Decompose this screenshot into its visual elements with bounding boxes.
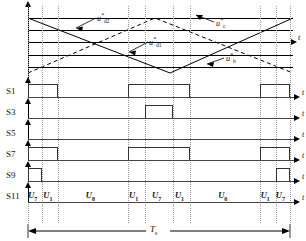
switch-row-label: S11: [6, 191, 20, 201]
voltage-vector-sub: 1: [135, 196, 138, 202]
voltage-vector-sub: 7: [282, 196, 285, 202]
voltage-vector-label: U1: [261, 190, 270, 202]
voltage-vector-label: U7: [28, 190, 37, 202]
voltage-vector-sub: 7: [34, 196, 37, 202]
period-label-sub: s: [155, 230, 157, 236]
voltage-vector-sub: 7: [158, 196, 161, 202]
switch-row-s11: S11t: [0, 0, 306, 241]
switch-row-y-axis-arrow-icon: [25, 182, 31, 188]
voltage-vector-sub: 0: [224, 196, 227, 202]
voltage-vector-label: U7: [152, 190, 161, 202]
voltage-vector-sub: 1: [181, 196, 184, 202]
voltage-vector-label: U8: [86, 190, 95, 202]
switch-row-t-axis: [28, 202, 294, 203]
voltage-vector-label: U1: [175, 190, 184, 202]
switch-row-t-label: t: [302, 193, 304, 202]
period-bar: Ts: [0, 224, 306, 241]
period-label: Ts: [150, 224, 157, 236]
voltage-vector-label: U1: [43, 190, 52, 202]
figure-root: t u*d2: [0, 0, 306, 241]
voltage-vector-sub: 1: [49, 196, 52, 202]
voltage-vector-label: U1: [129, 190, 138, 202]
voltage-vector-label: U0: [218, 190, 227, 202]
voltage-vector-sub: 1: [267, 196, 270, 202]
voltage-vector-label: U7: [276, 190, 285, 202]
switch-row-t-axis-arrow-icon: [294, 199, 300, 205]
voltage-vector-sub: 8: [92, 196, 95, 202]
